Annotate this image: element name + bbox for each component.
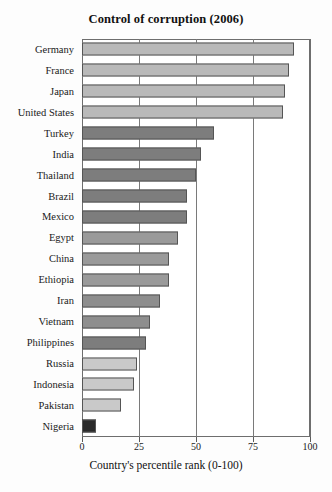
category-label: France	[0, 60, 78, 81]
tick-label: 50	[191, 441, 201, 452]
category-label: Ethiopia	[0, 269, 78, 290]
table-row	[82, 269, 310, 290]
table-row	[82, 102, 310, 123]
bar-nigeria[interactable]	[82, 420, 96, 433]
bar-egypt[interactable]	[82, 231, 178, 244]
gridline-100	[310, 39, 311, 437]
category-label: Turkey	[0, 123, 78, 144]
category-label: Thailand	[0, 165, 78, 186]
category-label: India	[0, 144, 78, 165]
table-row	[82, 60, 310, 81]
table-row	[82, 353, 310, 374]
category-label: Mexico	[0, 207, 78, 228]
category-label: China	[0, 248, 78, 269]
bar-turkey[interactable]	[82, 127, 214, 140]
table-row	[82, 123, 310, 144]
category-label: Russia	[0, 353, 78, 374]
category-label: Brazil	[0, 186, 78, 207]
table-row	[82, 81, 310, 102]
table-row	[82, 144, 310, 165]
table-row	[82, 311, 310, 332]
category-label: Indonesia	[0, 374, 78, 395]
bar-france[interactable]	[82, 64, 289, 77]
table-row	[82, 395, 310, 416]
tick-label: 100	[303, 441, 318, 452]
x-axis-label: Country's percentile rank (0-100)	[0, 459, 332, 471]
chart-title: Control of corruption (2006)	[0, 12, 332, 27]
plot-area	[82, 39, 310, 437]
x-axis-ticks: 0255075100	[82, 437, 310, 451]
bar-thailand[interactable]	[82, 169, 196, 182]
table-row	[82, 186, 310, 207]
category-label: Germany	[0, 39, 78, 60]
table-row	[82, 374, 310, 395]
tick-label: 0	[80, 441, 85, 452]
table-row	[82, 416, 310, 437]
bar-india[interactable]	[82, 148, 201, 161]
category-label: United States	[0, 102, 78, 123]
bar-philippines[interactable]	[82, 336, 146, 349]
category-label: Japan	[0, 81, 78, 102]
table-row	[82, 39, 310, 60]
tick-label: 25	[134, 441, 144, 452]
bar-chart: Control of corruption (2006) GermanyFran…	[0, 0, 332, 492]
bar-rows	[82, 39, 310, 437]
bar-japan[interactable]	[82, 85, 285, 98]
category-label: Iran	[0, 290, 78, 311]
category-label: Egypt	[0, 227, 78, 248]
category-label: Vietnam	[0, 311, 78, 332]
bar-pakistan[interactable]	[82, 399, 121, 412]
category-label: Pakistan	[0, 395, 78, 416]
table-row	[82, 290, 310, 311]
bar-ethiopia[interactable]	[82, 273, 169, 286]
category-label: Philippines	[0, 332, 78, 353]
bar-vietnam[interactable]	[82, 315, 150, 328]
category-label: Nigeria	[0, 416, 78, 437]
bar-iran[interactable]	[82, 294, 160, 307]
bar-germany[interactable]	[82, 43, 294, 56]
bar-united-states[interactable]	[82, 106, 283, 119]
bar-china[interactable]	[82, 252, 169, 265]
bar-mexico[interactable]	[82, 210, 187, 223]
tick-label: 75	[248, 441, 258, 452]
bar-indonesia[interactable]	[82, 378, 134, 391]
table-row	[82, 207, 310, 228]
category-axis-labels: GermanyFranceJapanUnited StatesTurkeyInd…	[0, 39, 78, 437]
table-row	[82, 165, 310, 186]
bar-russia[interactable]	[82, 357, 137, 370]
table-row	[82, 332, 310, 353]
table-row	[82, 227, 310, 248]
bar-brazil[interactable]	[82, 190, 187, 203]
table-row	[82, 248, 310, 269]
